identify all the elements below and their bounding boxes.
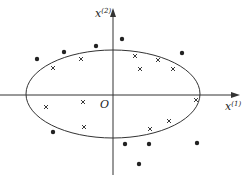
- dot-point: [120, 37, 124, 41]
- dot-point: [147, 142, 151, 146]
- dot-point: [51, 130, 55, 134]
- cross-point: [82, 125, 86, 129]
- classification-diagram: x(2) x(1) O: [0, 0, 244, 175]
- cross-point: [79, 57, 83, 61]
- cross-point: [138, 67, 142, 71]
- cross-point: [148, 127, 152, 131]
- dot-point: [123, 142, 127, 146]
- y-axis-label: x(2): [95, 7, 111, 20]
- cross-point: [171, 67, 175, 71]
- cross-point: [167, 119, 171, 123]
- dot-point: [62, 50, 66, 54]
- dot-point: [180, 51, 184, 55]
- cross-point: [156, 58, 160, 62]
- dot-point: [94, 44, 98, 48]
- dot-point: [35, 57, 39, 61]
- cross-point: [51, 66, 55, 70]
- x-axis-label: x(1): [225, 100, 241, 113]
- cross-point: [133, 54, 137, 58]
- cross-point: [44, 105, 48, 109]
- x-axis-arrow-icon: [231, 92, 240, 98]
- cross-point: [194, 98, 198, 102]
- cross-point: [81, 100, 85, 104]
- dot-point: [137, 162, 141, 166]
- dot-point: [195, 141, 199, 145]
- positive-points: [35, 37, 199, 166]
- origin-label: O: [100, 98, 109, 111]
- negative-points: [44, 54, 198, 131]
